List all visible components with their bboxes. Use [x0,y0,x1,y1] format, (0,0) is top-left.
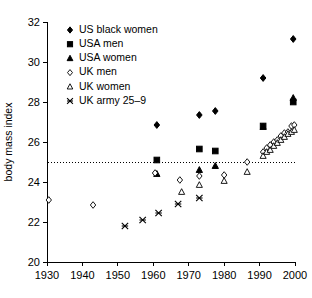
data-point [196,167,202,173]
data-point [122,223,128,229]
legend-marker-cross-star [67,98,73,104]
x-tick-label: 1960 [141,269,165,281]
series-us-black-women [154,36,296,129]
data-point [179,189,185,195]
data-point [177,177,182,184]
data-point [212,108,218,115]
series-uk-men [46,122,297,209]
legend-marker-filled-diamond [67,27,72,33]
x-tick-label: 2000 [283,269,307,281]
bmi-trend-chart: US black womenUSA menUSA womenUK menUK w… [0,0,312,298]
y-tick-label: 30 [28,56,40,68]
legend-marker-filled-triangle [67,55,73,60]
y-axis-title: body mass index [2,102,14,182]
data-point [290,95,296,101]
x-tick-label: 1990 [247,269,271,281]
data-point [155,210,161,216]
data-point [154,122,160,129]
data-point [244,159,249,166]
data-point [197,173,202,180]
data-point [196,182,202,188]
data-point [154,157,160,163]
legend-label: UK women [79,80,131,92]
y-tick-label: 28 [28,96,40,108]
x-tick-label: 1980 [212,269,236,281]
legend-label: UK men [79,65,117,77]
data-point [260,75,266,82]
legend-label: US black women [79,23,158,35]
legend-label: USA men [79,37,124,49]
data-point [196,195,202,201]
legend-label: UK army 25–9 [79,94,146,106]
y-tick-label: 24 [28,176,40,188]
data-point [290,36,296,43]
data-point [197,146,203,152]
x-tick-label: 1930 [35,269,59,281]
x-tick-label: 1940 [70,269,94,281]
chart-canvas: US black womenUSA menUSA womenUK menUK w… [0,0,312,298]
data-point [212,163,218,169]
y-tick-label: 22 [28,216,40,228]
data-point [221,178,227,184]
data-point [175,201,181,207]
legend-marker-open-triangle [67,84,73,89]
data-point [212,148,218,154]
chart-legend: US black womenUSA menUSA womenUK menUK w… [67,23,158,106]
data-point [197,112,203,119]
data-point [90,202,95,209]
series-usa-women [154,95,297,177]
series-uk-army-25-9 [122,195,203,229]
legend-label: USA women [79,51,137,63]
data-point [244,169,250,175]
series-usa-men [154,99,296,163]
x-tick-label: 1950 [106,269,130,281]
data-point [139,217,145,223]
legend-marker-filled-square [67,42,72,47]
y-tick-label: 32 [28,16,40,28]
y-tick-label: 26 [28,136,40,148]
axis-label-layer: 2022242628303219301940195019601970198019… [2,16,307,281]
legend-marker-open-diamond [68,70,73,76]
x-tick-label: 1970 [176,269,200,281]
y-tick-label: 20 [28,256,40,268]
